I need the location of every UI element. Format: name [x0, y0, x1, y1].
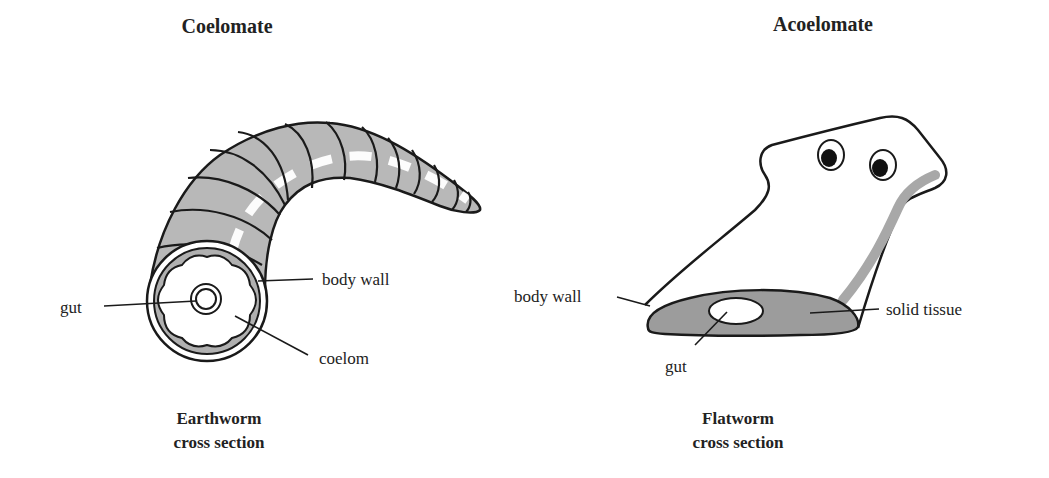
- flatworm-caption-line1: Flatworm: [702, 409, 774, 428]
- acoelomate-title: Acoelomate: [773, 13, 873, 35]
- acoelomate-panel: Acoelomate body wall gut solid tissue Fl…: [514, 13, 962, 452]
- earthworm-caption-line1: Earthworm: [177, 409, 262, 428]
- earthworm-caption-line2: cross section: [174, 433, 265, 452]
- label-coelom: coelom: [319, 349, 369, 368]
- coelomate-panel: Coelomate: [60, 15, 480, 452]
- label-body-wall: body wall: [322, 270, 390, 289]
- label-flatworm-body-wall: body wall: [514, 287, 582, 306]
- coelomate-title: Coelomate: [181, 15, 272, 37]
- flatworm-caption-line2: cross section: [693, 433, 784, 452]
- flatworm-body-wall-leader-line: [617, 297, 650, 306]
- label-gut: gut: [60, 298, 82, 317]
- diagram-canvas: Coelomate: [0, 0, 1049, 478]
- earthworm-cross-section: [147, 241, 267, 361]
- label-solid-tissue: solid tissue: [886, 300, 962, 319]
- label-flatworm-gut: gut: [665, 357, 687, 376]
